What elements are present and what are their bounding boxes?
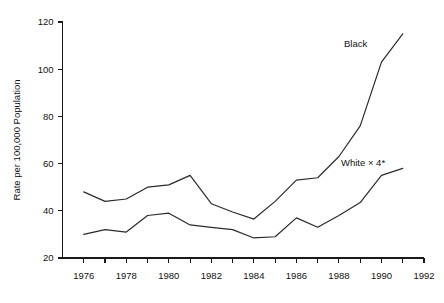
x-tick-label-1990: 1990	[371, 270, 392, 281]
x-tick-label-1992: 1992	[413, 270, 434, 281]
series-label-black: Black	[344, 38, 367, 49]
line-chart: 2040608010012019761978198019821984198619…	[0, 0, 444, 303]
series-line-white-x-4	[84, 168, 403, 238]
y-tick-label-20: 20	[43, 252, 54, 263]
y-tick-label-40: 40	[43, 205, 54, 216]
x-tick-label-1978: 1978	[116, 270, 137, 281]
x-tick-label-1980: 1980	[158, 270, 179, 281]
y-tick-label-80: 80	[43, 111, 54, 122]
series-label-white: White × 4*	[341, 157, 385, 168]
y-tick-label-120: 120	[38, 16, 54, 27]
x-tick-label-1976: 1976	[73, 270, 94, 281]
x-tick-label-1984: 1984	[243, 270, 264, 281]
y-tick-label-60: 60	[43, 158, 54, 169]
chart-page: 2040608010012019761978198019821984198619…	[0, 0, 444, 303]
series-line-black	[84, 34, 403, 219]
x-tick-label-1982: 1982	[201, 270, 222, 281]
x-tick-label-1986: 1986	[286, 270, 307, 281]
y-tick-label-100: 100	[38, 64, 54, 75]
x-tick-label-1988: 1988	[328, 270, 349, 281]
y-axis-title: Rate per 100,000 Population	[11, 80, 22, 201]
